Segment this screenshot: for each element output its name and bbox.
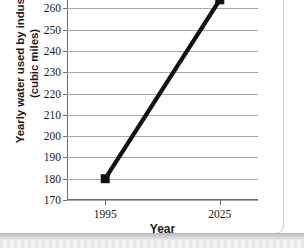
data-point-marker (101, 174, 110, 183)
y-tick-label: 260 (44, 2, 61, 14)
y-tick-label: 170 (44, 194, 61, 206)
x-tick-mark (105, 200, 106, 205)
x-tick-label: 2025 (208, 208, 231, 220)
y-tick-label: 200 (44, 130, 61, 142)
data-point-marker (215, 0, 224, 4)
page-shadow (0, 233, 304, 240)
y-axis-title-line2: (cubic miles) (27, 0, 41, 144)
y-tick-label: 230 (44, 66, 61, 78)
chart-page: Yearly water used by industry (cubic mil… (0, 0, 304, 248)
y-tick-label: 190 (44, 151, 61, 163)
y-tick-label: 250 (44, 24, 61, 36)
y-tick-label: 240 (44, 45, 61, 57)
y-tick-label: 220 (44, 88, 61, 100)
y-axis-title: Yearly water used by industry (cubic mil… (14, 0, 41, 144)
y-tick-mark (63, 200, 67, 201)
page-shadow-texture (0, 240, 304, 248)
x-tick-mark (220, 200, 221, 205)
series-line (105, 0, 220, 179)
data-series (67, 0, 258, 200)
y-tick-label: 180 (44, 173, 61, 185)
plot-area: 170180190200210220230240250260270 199520… (67, 0, 258, 200)
gridline (67, 200, 258, 201)
x-tick-label: 1995 (94, 208, 117, 220)
y-tick-label: 210 (44, 109, 61, 121)
y-axis-title-line1: Yearly water used by industry (14, 0, 26, 143)
